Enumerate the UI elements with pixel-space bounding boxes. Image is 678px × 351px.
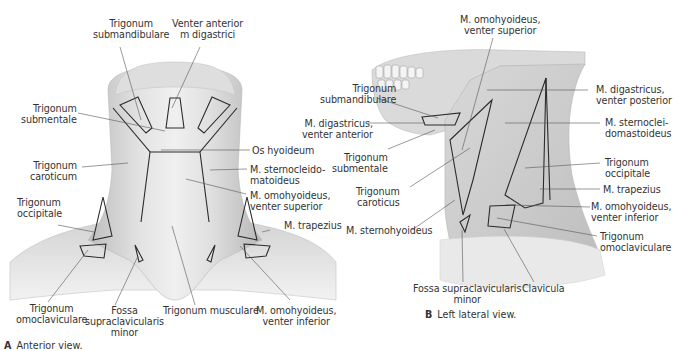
label-a-trigonum-omoclaviculare: Trigonum omoclaviculare: [16, 303, 87, 325]
label-a-m-omohyoideus-venter-inferior: M. omohyoideus, venter inferior: [256, 305, 336, 327]
label-a-m-omohyoideus-venter-superior: M. omohyoideus, venter superior: [250, 190, 330, 212]
label-b-fossa-supraclavicularis-minor: Fossa supraclavicularis minor: [413, 283, 521, 305]
caption-a-letter: A: [4, 340, 11, 351]
label-a-os-hyoideum: Os hyoideum: [252, 145, 314, 156]
label-a-trigonum-occipitale: Trigonum occipitale: [17, 197, 62, 219]
label-b-trigonum-submandibulare: Trigonum submandibulare: [320, 83, 396, 105]
label-a-m-sternocleidomastoideus: M. sternocleido- matoideus: [250, 164, 325, 186]
label-a-trigonum-musculare: Trigonum musculare: [163, 305, 259, 316]
label-b-trigonum-caroticus: Trigonum caroticus: [356, 186, 400, 208]
caption-b-letter: B: [425, 309, 432, 320]
label-b-m-omohyoideus-venter-superior: M. omohyoideus, venter superior: [460, 14, 540, 36]
label-a-trigonum-submandibulare: Trigonum submandibulare: [93, 18, 169, 40]
caption-b-text: Left lateral view.: [437, 309, 516, 320]
label-b-clavicula: Clavicula: [522, 283, 565, 294]
caption-a: AAnterior view.: [4, 340, 82, 351]
label-b-m-trapezius: M. trapezius: [603, 184, 661, 195]
label-a-m-trapezius: M. trapezius: [284, 220, 342, 231]
label-a-fossa-supraclavicularis-minor: Fossa supraclavicularis minor: [85, 305, 164, 338]
label-a-venter-anterior-digastrici: Venter anterior m digastrici: [172, 18, 243, 40]
caption-a-text: Anterior view.: [16, 340, 82, 351]
label-b-m-digastricus-venter-anterior: M. digastricus, venter anterior: [302, 118, 373, 140]
label-a-trigonum-caroticum: Trigonum caroticum: [30, 160, 77, 182]
label-a-trigonum-submentale: Trigonum submentale: [21, 103, 77, 125]
lateral-view-figure: [372, 50, 605, 288]
label-b-m-sternocleidomastoideus: M. sternoclei- domastoideus: [605, 117, 671, 139]
label-b-trigonum-submentale: Trigonum submentale: [332, 152, 388, 174]
label-b-trigonum-omoclaviculare: Trigonum omoclaviculare: [600, 231, 671, 253]
label-b-m-sternohyoideus: M. sternohyoideus: [346, 225, 432, 236]
caption-b: BLeft lateral view.: [425, 309, 516, 320]
label-b-m-omohyoideus-venter-inferior: M. omohyoideus, venter inferior: [591, 201, 671, 223]
label-b-trigonum-occipitale: Trigonum occipitale: [605, 157, 650, 179]
label-b-m-digastricus-venter-posterior: M. digastricus, venter posterior: [596, 84, 672, 106]
